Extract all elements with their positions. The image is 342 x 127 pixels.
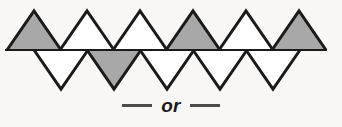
shaded-downward-triangle-group — [87, 50, 141, 89]
triangle-tessellation-figure — [0, 0, 342, 127]
downward-triangle-1 — [87, 50, 141, 89]
upward-triangle-2 — [113, 11, 167, 50]
upward-triangle-1 — [60, 11, 114, 50]
upward-triangle-3 — [166, 11, 220, 50]
upward-triangle-5 — [272, 11, 326, 50]
shaded-upward-triangle-group — [7, 11, 326, 50]
downward-triangle-4 — [246, 50, 300, 89]
downward-triangle-2 — [140, 50, 194, 89]
upward-triangle-0 — [7, 11, 61, 50]
downward-triangle-3 — [193, 50, 247, 89]
downward-triangle-0 — [34, 50, 88, 89]
figure-container: or — [0, 0, 342, 127]
upward-triangle-4 — [219, 11, 273, 50]
